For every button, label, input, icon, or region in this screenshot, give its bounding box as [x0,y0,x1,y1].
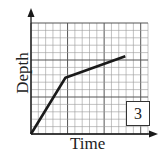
x-axis-label: Time [70,134,105,154]
y-axis-arrow-icon [28,8,35,17]
x-axis-arrow-icon [149,131,158,138]
panel-number-badge: 3 [126,101,150,126]
y-axis-label: Depth [13,47,33,99]
